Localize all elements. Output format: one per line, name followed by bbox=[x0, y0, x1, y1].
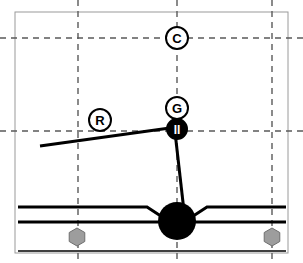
marker-g[interactable]: G bbox=[166, 97, 188, 119]
bolt-hexagon-right bbox=[264, 228, 280, 246]
marker-pause-joint[interactable]: II bbox=[167, 119, 187, 139]
pivot-ball[interactable] bbox=[158, 202, 196, 240]
diagram-canvas: CGRII bbox=[0, 0, 303, 263]
marker-g-label: G bbox=[172, 101, 182, 116]
marker-r-label: R bbox=[95, 113, 105, 128]
marker-pause-joint-label: II bbox=[174, 123, 181, 137]
marker-r[interactable]: R bbox=[89, 109, 111, 131]
marker-c-label: C bbox=[172, 31, 182, 46]
bolt-hexagon-left bbox=[69, 228, 85, 246]
diagram-svg: CGRII bbox=[0, 0, 303, 263]
marker-c[interactable]: C bbox=[166, 27, 188, 49]
